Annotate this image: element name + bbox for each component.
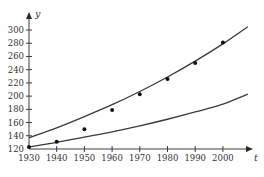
x-tick-label: 1950	[74, 153, 96, 163]
data-point	[27, 145, 31, 149]
y-tick-label: 300	[8, 25, 24, 35]
lower-curve	[29, 94, 248, 147]
y-axis-arrow-icon	[26, 12, 32, 19]
data-point	[110, 108, 114, 112]
y-tick-label: 280	[8, 38, 24, 48]
data-point	[55, 140, 59, 144]
data-point	[221, 41, 225, 45]
data-points	[27, 41, 225, 149]
y-tick-label: 260	[8, 51, 24, 61]
x-tick-label: 1940	[46, 153, 68, 163]
chart: t 19301940195019601970198019902000 y 120…	[0, 0, 264, 177]
y-tick-label: 240	[8, 65, 24, 75]
y-axis: y 120140160180200220240260280300	[8, 8, 41, 154]
y-tick-label: 160	[8, 118, 24, 128]
x-tick-label: 1960	[101, 153, 123, 163]
y-tick-label: 220	[8, 78, 24, 88]
data-point	[82, 127, 86, 131]
x-tick-label: 2000	[212, 153, 234, 163]
x-axis-arrow-icon	[246, 146, 253, 152]
y-tick-label: 140	[8, 131, 24, 141]
data-point	[138, 92, 142, 96]
x-tick-label: 1980	[157, 153, 179, 163]
y-tick-label: 120	[8, 144, 24, 154]
y-tick-label: 180	[8, 104, 24, 114]
upper-curve	[29, 27, 248, 138]
x-axis: t 19301940195019601970198019902000	[18, 146, 258, 163]
x-axis-label: t	[254, 152, 258, 163]
curves	[29, 27, 248, 147]
y-tick-label: 200	[8, 91, 24, 101]
x-tick-label: 1970	[129, 153, 151, 163]
y-axis-label: y	[34, 8, 41, 19]
x-tick-label: 1990	[184, 153, 206, 163]
data-point	[193, 61, 197, 65]
data-point	[166, 77, 170, 81]
y-ticks: 120140160180200220240260280300	[8, 25, 32, 154]
x-tick-label: 1930	[18, 153, 40, 163]
